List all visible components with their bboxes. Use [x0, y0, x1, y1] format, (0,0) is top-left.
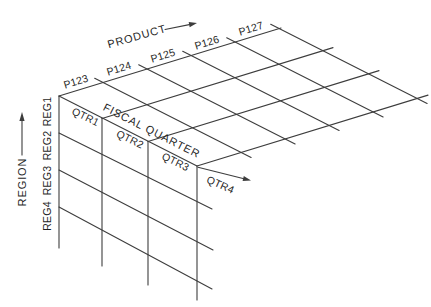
top-face-right-edge — [271, 24, 427, 103]
region-axis-label: REGION — [16, 158, 28, 207]
top-face-grid-line-quarter-2 — [148, 71, 379, 142]
top-face-grid-line-product-3 — [183, 51, 339, 130]
axis-arrowheads — [19, 22, 251, 181]
quarter-axis-arrowhead-icon — [243, 176, 251, 181]
data-cube-canvas: PRODUCT P123 P124 P125 P126 P127 FISCAL … — [0, 0, 431, 307]
region-axis-arrowhead-icon — [19, 112, 24, 121]
quarter-value-label-qtr1: QTR1 — [70, 105, 101, 128]
data-cube-diagram: PRODUCT P123 P124 P125 P126 P127 FISCAL … — [0, 0, 431, 307]
region-value-label-reg2: REG2 — [41, 131, 53, 160]
diagram-labels: PRODUCT P123 P124 P125 P126 P127 FISCAL … — [16, 19, 265, 231]
region-value-label-reg1: REG1 — [41, 97, 53, 126]
product-axis-arrowhead-icon — [189, 22, 197, 27]
front-face-region-line-3 — [59, 207, 212, 289]
product-value-label-p126: P126 — [193, 33, 221, 52]
product-axis-arrow-shaft — [165, 24, 191, 29]
product-axis-label: PRODUCT — [106, 22, 168, 50]
region-value-label-reg4: REG4 — [41, 201, 53, 230]
fiscal-quarter-axis-label: FISCAL QUARTER — [101, 101, 202, 160]
top-face-grid-line-quarter-1 — [102, 48, 333, 119]
top-face-product-edge — [59, 28, 281, 96]
cube-lines — [22, 24, 428, 300]
top-face-grid-line-product-4 — [227, 38, 383, 117]
quarter-value-label-qtr4: QTR4 — [205, 173, 236, 196]
region-value-label-reg3: REG3 — [41, 166, 53, 195]
front-face-region-line-2 — [59, 170, 213, 250]
top-face-far-edge — [197, 95, 428, 166]
